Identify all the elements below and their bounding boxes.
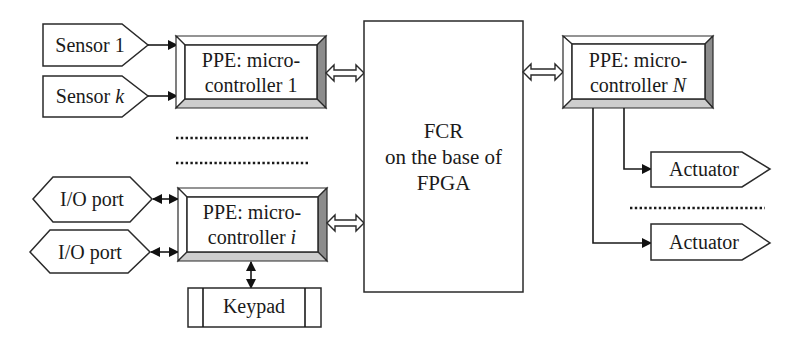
actuator-1-block: Actuator: [651, 152, 770, 187]
io-port-2-block: I/O port: [30, 230, 150, 273]
sensor-1-block: Sensor 1: [43, 24, 148, 66]
bevel-right: [318, 188, 327, 261]
bevel-bottom: [178, 252, 327, 261]
sensor-k-block: Sensor k: [43, 76, 148, 117]
bevel-bottom: [563, 99, 713, 108]
bus-arrow-ppe1-fcr: [326, 65, 364, 81]
ppe-microcontroller-n: PPE: micro- controller N: [563, 36, 713, 108]
actuator-2-arrow: [593, 108, 651, 243]
fcr-title: FCR: [424, 119, 464, 143]
bus-arrow-fcr-ppeN: [523, 64, 563, 80]
block-diagram: Sensor 1 Sensor k PPE: micro- controller…: [0, 0, 804, 348]
bevel-left: [178, 188, 187, 261]
bus-arrow-ppei-fcr: [327, 215, 364, 231]
bevel-left: [563, 36, 572, 108]
actuator-2-label: Actuator: [669, 231, 739, 253]
keypad-label: Keypad: [223, 295, 285, 318]
ppe-n-line1: PPE: micro-: [589, 49, 687, 71]
bevel-right: [705, 36, 713, 108]
bevel-bottom: [176, 99, 326, 108]
io-port-1-label: I/O port: [60, 188, 124, 211]
bevel-left: [176, 36, 185, 108]
sensor-1-label: Sensor 1: [55, 34, 124, 56]
ppe-microcontroller-1: PPE: micro- controller 1: [176, 36, 326, 108]
bevel-top: [563, 36, 713, 44]
ppe-n-line2: controller N: [590, 74, 688, 96]
ppe-1-line2: controller 1: [205, 74, 298, 96]
sensor-k-label: Sensor k: [56, 85, 125, 107]
bevel-top: [178, 188, 327, 197]
ppe-1-line1: PPE: micro-: [202, 49, 300, 71]
actuator-2-block: Actuator: [651, 224, 770, 260]
bevel-top: [176, 36, 326, 45]
keypad-block: Keypad: [188, 288, 321, 327]
fcr-subtitle: on the base of: [385, 145, 502, 169]
io-port-1-block: I/O port: [33, 177, 152, 222]
actuator-1-arrow: [624, 108, 651, 169]
ppe-microcontroller-i: PPE: micro- controller i: [178, 188, 327, 261]
ppe-i-line2: controller i: [208, 226, 296, 248]
fcr-fpga-label: FPGA: [417, 171, 472, 195]
actuator-1-label: Actuator: [669, 158, 739, 180]
io-port-2-label: I/O port: [58, 241, 122, 264]
ppe-i-line1: PPE: micro-: [203, 201, 301, 223]
bevel-right: [317, 36, 326, 108]
fcr-fpga-block: FCR on the base of FPGA: [364, 21, 523, 292]
